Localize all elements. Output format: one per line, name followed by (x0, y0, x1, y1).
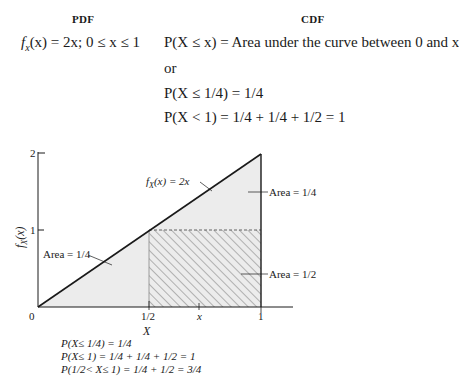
x-tick-label-x: x (196, 310, 202, 322)
x-tick-label-0: 0 (29, 310, 35, 322)
area-label-lower: Area = 1/4 (43, 248, 91, 260)
x-tick-label-1: 1 (258, 310, 264, 322)
y-axis-label: fX(x) (13, 226, 29, 248)
bottom-line-3: P(1/2< X≤ 1) = 1/4 + 1/2 = 3/4 (61, 363, 201, 375)
x-axis-label: X (142, 324, 151, 338)
x-tick-label-half: 1/2 (141, 310, 155, 322)
hatched-rectangle (149, 230, 261, 307)
y-tick-label-2: 2 (30, 147, 36, 159)
y-tick-label-1: 1 (30, 224, 36, 236)
bottom-line-1: P(X≤ 1/4) = 1/4 (61, 337, 132, 349)
curve-label-leader (200, 182, 212, 191)
area-label-rect: Area = 1/2 (269, 268, 316, 280)
curve-label: fX(x) = 2x (146, 175, 190, 190)
area-label-upper: Area = 1/4 (269, 186, 317, 198)
bottom-line-2: P(X≤ 1) = 1/4 + 1/4 + 1/2 = 1 (61, 350, 195, 362)
